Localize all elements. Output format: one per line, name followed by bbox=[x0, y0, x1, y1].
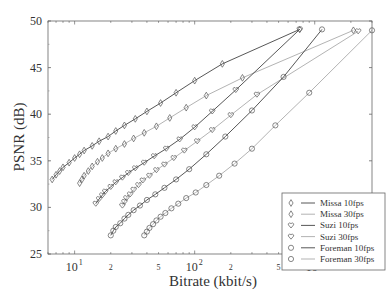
svg-text:2: 2 bbox=[199, 258, 203, 267]
heart-marker-icon bbox=[93, 201, 98, 206]
series-suzi-10fps bbox=[93, 27, 302, 206]
y-tick-label: 45 bbox=[30, 61, 42, 75]
y-tick-label: 50 bbox=[30, 14, 42, 28]
legend-label: Foreman 10fps bbox=[320, 243, 375, 253]
y-tick-label: 35 bbox=[30, 154, 42, 168]
x-minor-tick-label: 5 bbox=[157, 263, 161, 272]
x-tick-label: 10 bbox=[186, 260, 198, 274]
svg-text:1: 1 bbox=[79, 258, 83, 267]
x-axis-label: Bitrate (kbit/s) bbox=[169, 273, 257, 290]
y-tick-label: 30 bbox=[30, 200, 42, 214]
y-tick-label: 25 bbox=[30, 247, 42, 261]
x-minor-tick-label: 2 bbox=[109, 263, 113, 272]
psnr-bitrate-chart: 25303540455010110210325252 Bitrate (kbit… bbox=[0, 0, 390, 299]
y-tick-label: 40 bbox=[30, 107, 42, 121]
x-minor-tick-label: 2 bbox=[229, 263, 233, 272]
series-missa-30fps bbox=[78, 27, 356, 187]
x-tick-label: 10 bbox=[66, 260, 78, 274]
legend: Missa 10fpsMissa 30fpsSuzi 10fpsSuzi 30f… bbox=[282, 193, 385, 270]
legend-label: Suzi 10fps bbox=[320, 220, 359, 230]
legend-label: Suzi 30fps bbox=[320, 232, 359, 242]
x-minor-tick-label: 5 bbox=[277, 263, 281, 272]
legend-label: Missa 30fps bbox=[320, 209, 364, 219]
legend-label: Missa 10fps bbox=[320, 198, 364, 208]
y-axis-label: PSNR (dB) bbox=[11, 103, 28, 172]
legend-label: Foreman 30fps bbox=[320, 254, 375, 264]
series-missa-10fps bbox=[50, 26, 302, 183]
